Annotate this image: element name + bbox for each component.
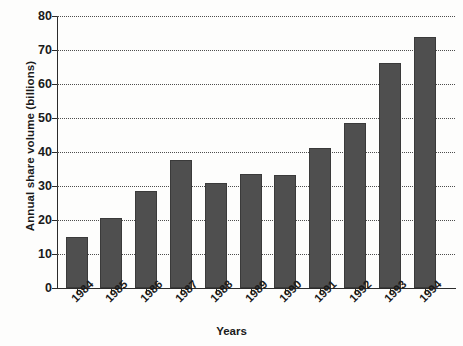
y-tick-label: 20 xyxy=(12,213,52,227)
bar[interactable] xyxy=(309,148,331,288)
bar[interactable] xyxy=(379,63,401,288)
y-tick-label: 30 xyxy=(12,179,52,193)
bar[interactable] xyxy=(240,174,262,288)
y-axis-ticks: 01020304050607080 xyxy=(0,0,52,346)
bar[interactable] xyxy=(135,191,157,288)
y-tick-label: 60 xyxy=(12,77,52,91)
y-tick-label: 80 xyxy=(12,9,52,23)
x-axis-title: Years xyxy=(0,325,463,337)
y-tick-label: 0 xyxy=(12,281,52,295)
y-tick-label: 40 xyxy=(12,145,52,159)
bar[interactable] xyxy=(100,218,122,288)
bar[interactable] xyxy=(274,175,296,288)
plot-area xyxy=(57,16,455,288)
y-tick-label: 50 xyxy=(12,111,52,125)
bar[interactable] xyxy=(205,183,227,288)
y-tick-label: 10 xyxy=(12,247,52,261)
bar-chart: Annual share volume (billions) 010203040… xyxy=(0,0,463,346)
bar[interactable] xyxy=(414,37,436,288)
bar[interactable] xyxy=(344,123,366,288)
gridline xyxy=(57,50,455,51)
y-tick-label: 70 xyxy=(12,43,52,57)
bar[interactable] xyxy=(170,160,192,288)
gridline xyxy=(57,16,455,17)
